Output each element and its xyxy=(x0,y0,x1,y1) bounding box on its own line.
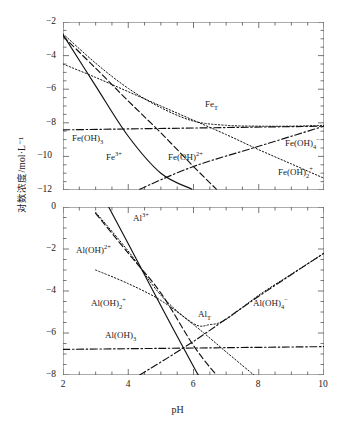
ytick-top-3: −8 xyxy=(30,118,56,128)
series-label-aloh3: Al(OH)3 xyxy=(105,331,136,342)
series-label-aloh4: Al(OH)4− xyxy=(253,297,288,310)
y-axis-label: 对数浓度/mol·L⁻¹ xyxy=(14,110,28,240)
tick-marks xyxy=(63,22,324,190)
speciation-figure: 对数浓度/mol·L⁻¹ pH −2 −4 −6 −8 −10 −12 FeT … xyxy=(0,0,355,428)
series-label-feoh3: Fe(OH)3 xyxy=(72,134,103,145)
ytick-top-1: −4 xyxy=(30,51,56,61)
chart-panel-fe: −2 −4 −6 −8 −10 −12 FeT Fe(OH)3 Fe3+ Fe(… xyxy=(63,22,324,190)
series-label-feoh2p: Fe(OH)2+ xyxy=(278,166,313,179)
chart-svg-al xyxy=(63,207,324,375)
ytick-top-0: −2 xyxy=(30,17,56,27)
series-label-feoh2plus: Fe(OH)2+ xyxy=(168,151,203,162)
x-axis-label: pH xyxy=(0,404,355,415)
plot-frame xyxy=(63,22,324,190)
series-label-alt: AlT xyxy=(198,310,211,321)
series-label-feoh4: Fe(OH)4− xyxy=(285,137,320,150)
xtick-0: 2 xyxy=(53,380,73,390)
series-label-aloh2p: Al(OH)2+ xyxy=(91,297,126,310)
xtick-1: 4 xyxy=(118,380,138,390)
ytick-bot-1: −2 xyxy=(30,244,56,254)
ytick-top-4: −10 xyxy=(26,151,52,161)
tick-marks xyxy=(63,207,324,375)
ytick-bot-0: 0 xyxy=(30,202,56,212)
xtick-4: 10 xyxy=(313,380,333,390)
xtick-2: 6 xyxy=(183,380,203,390)
series-label-al3: Al3+ xyxy=(133,212,149,223)
ytick-top-5: −12 xyxy=(26,185,52,195)
chart-panel-al: 0 −2 −4 −6 −8 2 4 6 8 10 Al3+ Al(OH)2+ A… xyxy=(63,207,324,375)
ytick-bot-2: −4 xyxy=(30,286,56,296)
series-label-fet: FeT xyxy=(205,100,218,111)
series-label-fe3: Fe3+ xyxy=(106,151,122,162)
ytick-bot-4: −8 xyxy=(30,370,56,380)
plot-frame xyxy=(63,207,324,375)
ytick-top-2: −6 xyxy=(30,84,56,94)
data-curves xyxy=(63,207,324,375)
chart-svg-fe xyxy=(63,22,324,190)
xtick-3: 8 xyxy=(248,380,268,390)
ytick-bot-3: −6 xyxy=(30,328,56,338)
series-label-aloh2plus: Al(OH)2+ xyxy=(76,244,111,255)
